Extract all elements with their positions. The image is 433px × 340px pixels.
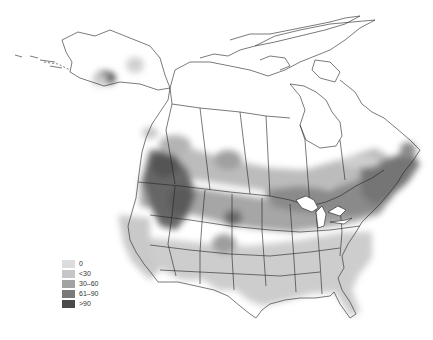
legend-label: 30–60 — [79, 280, 98, 288]
legend-swatch — [62, 260, 75, 268]
legend-swatch — [62, 300, 75, 308]
legend-item: >90 — [62, 299, 122, 309]
density-layer — [92, 57, 420, 316]
legend-label: >90 — [79, 300, 91, 308]
legend-swatch — [62, 270, 75, 278]
legend-item: 30–60 — [62, 279, 122, 289]
map-legend: 0 <30 30–60 61–90 >90 — [62, 259, 122, 309]
legend-label: 61–90 — [79, 290, 98, 298]
legend-label: 0 — [79, 260, 83, 268]
legend-label: <30 — [79, 270, 91, 278]
legend-swatch — [62, 280, 75, 288]
legend-item: <30 — [62, 269, 122, 279]
legend-swatch — [62, 290, 75, 298]
legend-item: 0 — [62, 259, 122, 269]
legend-item: 61–90 — [62, 289, 122, 299]
